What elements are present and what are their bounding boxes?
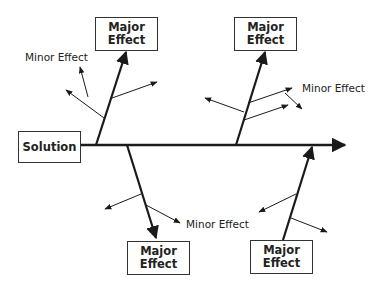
minor-effect-label-top-left: Minor Effect	[25, 51, 88, 63]
major-effect-label: Effect	[140, 258, 177, 271]
major-bone-bottom-left	[127, 145, 156, 238]
major-bone-bottom-right	[283, 147, 312, 240]
minor-effect-label-top-right: Minor Effect	[302, 82, 365, 94]
major-effect-box-bottom-right: Major Effect	[250, 240, 313, 274]
solution-box: Solution	[18, 131, 81, 163]
solution-label: Solution	[23, 141, 77, 154]
major-effect-label: Effect	[108, 34, 145, 47]
major-effect-box-top-left: Major Effect	[95, 17, 158, 51]
major-effect-box-bottom-left: Major Effect	[127, 241, 190, 275]
major-effect-box-top-right: Major Effect	[234, 17, 297, 51]
major-bone-top-left	[96, 52, 126, 145]
major-effect-label: Effect	[247, 34, 284, 47]
major-effect-label: Effect	[263, 257, 300, 270]
minor-effect-label-bottom-left: Minor Effect	[186, 218, 249, 230]
